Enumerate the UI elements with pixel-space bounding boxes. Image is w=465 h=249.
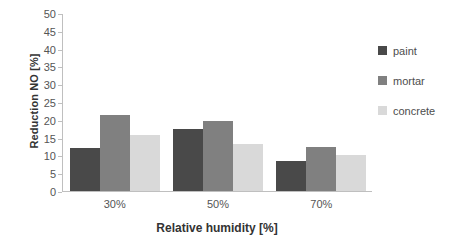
bar-mortar-50[interactable] — [203, 121, 233, 191]
y-axis-tick-label: 25 — [44, 97, 56, 109]
y-axis-tick-label: 0 — [50, 186, 56, 198]
bar-paint-30[interactable] — [70, 148, 100, 191]
y-axis-tick-mark — [58, 103, 62, 104]
y-axis-tick-mark — [58, 50, 62, 51]
y-axis-tick-label: 35 — [44, 61, 56, 73]
bar-group — [63, 14, 166, 191]
y-axis-tick-mark — [58, 67, 62, 68]
y-axis-tick-mark — [58, 156, 62, 157]
y-axis-tick-label: 30 — [44, 79, 56, 91]
bar-paint-70[interactable] — [276, 161, 306, 191]
y-axis-tick-mark — [58, 174, 62, 175]
legend-label: mortar — [393, 75, 425, 87]
y-axis-tick-mark — [58, 85, 62, 86]
bar-group — [166, 14, 269, 191]
y-axis-tick-mark — [58, 32, 62, 33]
bar-mortar-30[interactable] — [100, 115, 130, 191]
y-axis-tick-label: 40 — [44, 44, 56, 56]
x-axis-tick-label: 70% — [270, 198, 373, 210]
y-axis-tick-mark — [58, 121, 62, 122]
legend-entry-concrete[interactable]: concrete — [378, 97, 463, 124]
bar-paint-50[interactable] — [173, 129, 203, 191]
x-axis-title: Relative humidity [%] — [62, 221, 372, 235]
bar-group — [269, 14, 372, 191]
legend-swatch-icon — [378, 76, 387, 85]
legend-label: concrete — [393, 105, 435, 117]
x-axis-tick-labels: 30%50%70% — [63, 198, 373, 210]
y-axis-tick-label: 20 — [44, 115, 56, 127]
y-axis-tick-mark — [58, 192, 62, 193]
x-axis-tick-label: 30% — [63, 198, 166, 210]
x-axis-tick-label: 50% — [166, 198, 269, 210]
y-axis-tick-label: 10 — [44, 150, 56, 162]
legend-entry-paint[interactable]: paint — [378, 37, 463, 64]
bar-concrete-50[interactable] — [233, 144, 263, 191]
bar-mortar-70[interactable] — [306, 147, 336, 191]
y-axis-tick-label: 50 — [44, 8, 56, 20]
y-axis-tick-label: 5 — [50, 168, 56, 180]
legend-entry-mortar[interactable]: mortar — [378, 67, 463, 94]
y-axis-tick-label: 45 — [44, 26, 56, 38]
bar-concrete-70[interactable] — [336, 155, 366, 191]
legend-label: paint — [393, 45, 417, 57]
x-axis-line — [62, 191, 372, 192]
y-axis-tick-mark — [58, 14, 62, 15]
legend-swatch-icon — [378, 106, 387, 115]
bars-layer — [63, 14, 372, 191]
y-axis-tick-mark — [58, 139, 62, 140]
y-axis-title: Reduction NO [%] — [28, 16, 40, 186]
bar-concrete-30[interactable] — [130, 135, 160, 191]
plot-area: 50454035302520151050 — [62, 14, 372, 192]
legend-swatch-icon — [378, 46, 387, 55]
bar-chart: Reduction NO [%] 50454035302520151050 30… — [0, 0, 465, 249]
y-axis-tick-label: 15 — [44, 133, 56, 145]
chart-legend: paintmortarconcrete — [378, 37, 463, 127]
